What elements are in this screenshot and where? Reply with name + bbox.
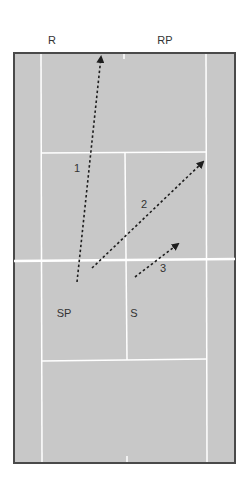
player-label-sp: SP xyxy=(57,308,72,319)
shot-1-label: 1 xyxy=(74,163,80,174)
player-label-r: R xyxy=(48,35,56,46)
shot-3-label: 3 xyxy=(160,263,166,274)
player-label-s: S xyxy=(130,308,137,319)
right-singles-line xyxy=(206,54,207,462)
shot-2-label: 2 xyxy=(141,199,147,210)
top-service-line xyxy=(41,152,206,153)
left-singles-line xyxy=(41,54,42,462)
court-surface xyxy=(14,53,235,463)
tennis-court-diagram xyxy=(0,0,248,486)
player-label-rp: RP xyxy=(157,35,172,46)
